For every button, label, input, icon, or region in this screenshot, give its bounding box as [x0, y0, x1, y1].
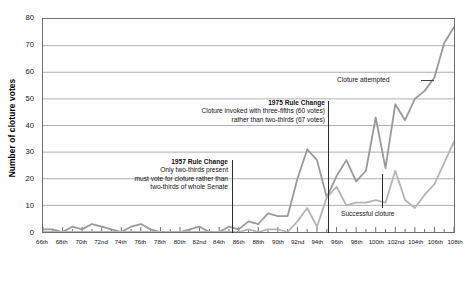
annotation-1957-line3: two-thirds of whole Senate [95, 183, 228, 191]
annotation-1975-title: 1975 Rule Change [150, 99, 325, 107]
y-tick-label: 80 [6, 14, 34, 22]
plot-area [42, 18, 455, 233]
data-series [43, 27, 454, 232]
annotation-cloture-attempted: Cloture attempted [337, 76, 417, 84]
annotation-1957-title: 1957 Rule Change [95, 158, 228, 166]
annotation-1957-line1: Only two-thirds present [95, 166, 228, 174]
annotation-1975-rule-change: 1975 Rule Change Cloture invoked with th… [150, 99, 325, 124]
y-tick-label: 70 [6, 41, 34, 49]
annotation-successful-cloture: Successful cloture [341, 210, 431, 218]
y-tick-label: 20 [6, 175, 34, 183]
y-tick-label: 10 [6, 202, 34, 210]
chart-figure: Number of cloture votes 0102030405060708… [0, 0, 469, 281]
chart-svg [43, 19, 454, 232]
y-tick-label: 30 [6, 148, 34, 156]
y-tick-label: 50 [6, 95, 34, 103]
y-tick-label: 40 [6, 122, 34, 130]
annotation-1975-line1: Cloture invoked with three-fifths (60 vo… [150, 107, 325, 115]
annotation-attempted-leader-line [421, 80, 434, 81]
x-tick-label: 108th [438, 238, 469, 245]
annotation-1975-line2: rather than two-thirds (67 votes) [150, 116, 325, 124]
y-tick-label: 60 [6, 68, 34, 76]
annotation-1975-marker-line [328, 101, 329, 233]
y-tick-label: 0 [6, 229, 34, 237]
annotation-1957-rule-change: 1957 Rule Change Only two-thirds present… [95, 158, 228, 192]
annotation-1957-line2: must vote for cloture rather than [95, 175, 228, 183]
annotation-1957-marker-line [232, 160, 233, 233]
annotation-successful-marker-line [382, 174, 383, 208]
series-line [43, 27, 454, 232]
